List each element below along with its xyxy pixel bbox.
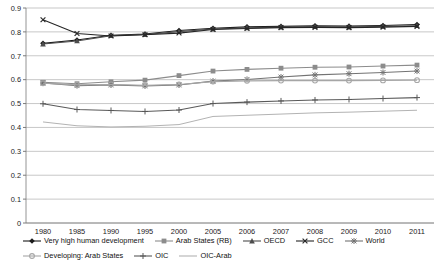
data-point-square-icon bbox=[313, 65, 318, 70]
legend-label: OIC bbox=[155, 251, 168, 261]
series-polyline bbox=[43, 98, 417, 112]
data-point-plus-icon bbox=[312, 97, 318, 103]
y-axis-tick-label: 0.2 bbox=[11, 171, 21, 180]
series-line bbox=[43, 110, 417, 127]
data-point-square-icon bbox=[211, 69, 216, 74]
series-polyline bbox=[43, 110, 417, 127]
legend-key-cross-x-icon bbox=[295, 236, 315, 246]
y-axis-tick-label: 0.9 bbox=[11, 4, 21, 13]
data-point-square-icon bbox=[161, 238, 166, 243]
y-axis-tick-label: 0.7 bbox=[11, 52, 21, 61]
y-axis-tick-label: 0.3 bbox=[11, 147, 21, 156]
data-point-square-icon bbox=[415, 63, 420, 68]
series-polyline bbox=[43, 71, 417, 86]
data-point-plus-icon bbox=[40, 101, 46, 107]
legend-item-oecd[interactable]: OECD bbox=[242, 236, 285, 246]
data-point-plus-icon bbox=[142, 108, 148, 114]
legend-row-1: Very high human development Arab States … bbox=[0, 233, 440, 248]
data-point-plus-icon bbox=[414, 95, 420, 101]
series-line bbox=[41, 63, 420, 86]
data-point-star-icon bbox=[312, 72, 318, 78]
legend-item-gcc[interactable]: GCC bbox=[295, 236, 333, 246]
y-axis-tick-label: 0.6 bbox=[11, 75, 21, 84]
legend-key-plus-icon bbox=[133, 251, 153, 261]
legend-label: Very high human development bbox=[44, 236, 144, 246]
legend-label: GCC bbox=[317, 236, 333, 246]
legend-item-oic-arab[interactable]: OIC-Arab bbox=[178, 251, 231, 261]
y-axis-tick-label: 0.1 bbox=[11, 195, 21, 204]
data-point-plus-icon bbox=[74, 107, 80, 113]
data-point-plus-icon bbox=[346, 96, 352, 102]
data-point-plus-icon bbox=[244, 99, 250, 105]
y-axis-tick-label: 0 bbox=[17, 219, 21, 228]
data-point-plus-icon bbox=[278, 98, 284, 104]
data-point-square-icon bbox=[143, 78, 148, 83]
legend-item-world[interactable]: World bbox=[344, 236, 385, 246]
data-point-star-icon bbox=[414, 68, 420, 74]
legend-item-oic[interactable]: OIC bbox=[133, 251, 168, 261]
data-point-square-icon bbox=[381, 64, 386, 69]
legend-item-very-high-human-development[interactable]: Very high human development bbox=[22, 236, 144, 246]
legend-label: Developing: Arab States bbox=[44, 251, 123, 261]
legend-item-developing-arab-states[interactable]: Developing: Arab States bbox=[22, 251, 123, 261]
legend-key-line-icon bbox=[178, 251, 198, 261]
data-point-plus-icon bbox=[176, 107, 182, 113]
legend-label: Arab States (RB) bbox=[176, 236, 232, 246]
legend-key-circle-icon bbox=[22, 251, 42, 261]
legend-key-triangle-icon bbox=[242, 236, 262, 246]
data-point-plus-icon bbox=[380, 96, 386, 102]
legend-key-star-icon bbox=[344, 236, 364, 246]
legend-label: OECD bbox=[264, 236, 285, 246]
data-point-plus-icon bbox=[140, 253, 146, 259]
data-point-plus-icon bbox=[108, 107, 114, 113]
series-line bbox=[40, 68, 420, 89]
data-point-square-icon bbox=[279, 66, 284, 71]
series-line bbox=[40, 22, 420, 46]
data-point-plus-icon bbox=[210, 101, 216, 107]
y-axis-tick-label: 0.5 bbox=[11, 99, 21, 108]
data-point-diamond-icon bbox=[29, 238, 35, 244]
legend-key-square-icon bbox=[154, 236, 174, 246]
legend-item-arab-states-rb[interactable]: Arab States (RB) bbox=[154, 236, 232, 246]
data-point-square-icon bbox=[245, 67, 250, 72]
legend-label: OIC-Arab bbox=[200, 251, 231, 261]
data-point-star-icon bbox=[346, 71, 352, 77]
y-axis-tick-label: 0.4 bbox=[11, 123, 21, 132]
data-point-star-icon bbox=[351, 238, 357, 244]
legend-row-2: Developing: Arab States OIC OIC-Arab bbox=[0, 248, 440, 263]
hdi-line-chart: 0.90.80.70.60.50.40.30.20.10198019851990… bbox=[0, 0, 440, 275]
data-point-square-icon bbox=[177, 73, 182, 78]
chart-legend: Very high human development Arab States … bbox=[0, 233, 440, 263]
y-axis-tick-label: 0.8 bbox=[11, 28, 21, 37]
legend-label: World bbox=[366, 236, 385, 246]
legend-key-diamond-icon bbox=[22, 236, 42, 246]
data-point-star-icon bbox=[380, 70, 386, 76]
data-point-square-icon bbox=[347, 65, 352, 70]
data-point-cross-x-icon bbox=[41, 17, 46, 22]
